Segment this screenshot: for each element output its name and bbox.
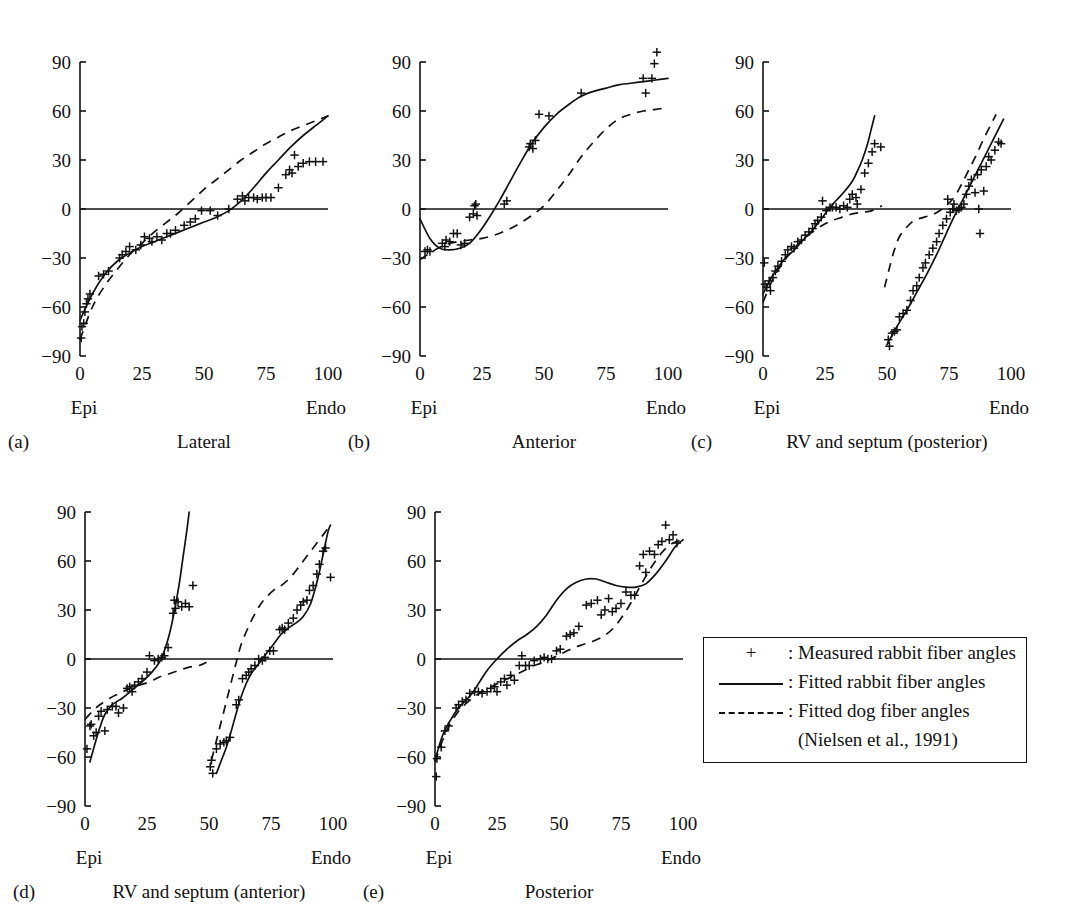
y-tick-label: 30	[407, 600, 426, 621]
fitted-dog-curve	[80, 116, 328, 340]
legend-label-fitted-rabbit: : Fitted rabbit fiber angles	[788, 671, 985, 693]
x-tick-label: 50	[200, 813, 219, 834]
x-tick-label: 50	[878, 363, 897, 384]
chart-c: 9060300−30−60−900255075100EpiEndo(c)RV a…	[683, 0, 1038, 455]
y-tick-label: −60	[724, 297, 754, 318]
x-tick-label: 100	[654, 363, 683, 384]
panel-letter: (e)	[363, 881, 384, 903]
x-tick-label: 0	[758, 363, 768, 384]
legend-text-2: Fitted rabbit fiber angles	[798, 671, 985, 692]
measured-points-group	[77, 151, 327, 342]
plus-marker-icon: +	[714, 643, 788, 662]
x-tick-label: 75	[612, 813, 631, 834]
measured-points-group	[760, 138, 1005, 351]
y-tick-label: 30	[57, 600, 76, 621]
x-tick-label: 0	[75, 363, 85, 384]
legend-colon-2: :	[788, 671, 793, 692]
y-tick-label: −90	[381, 346, 411, 367]
panel-title: Anterior	[512, 431, 577, 452]
measured-points-group	[432, 521, 681, 781]
endo-label: Endo	[661, 847, 701, 868]
x-tick-label: 75	[940, 363, 959, 384]
y-tick-label: −90	[41, 346, 71, 367]
x-tick-label: 0	[415, 363, 425, 384]
x-tick-label: 75	[257, 363, 276, 384]
legend-colon-3: :	[788, 700, 793, 721]
x-tick-label: 50	[195, 363, 214, 384]
endo-label: Endo	[989, 397, 1029, 418]
y-tick-label: −60	[46, 747, 76, 768]
legend-row-fitted-rabbit: : Fitted rabbit fiber angles	[704, 667, 1026, 696]
fitted-dog-curve	[211, 528, 328, 760]
dashed-line-icon	[714, 701, 788, 720]
y-tick-label: −30	[46, 698, 76, 719]
y-tick-label: 0	[745, 199, 755, 220]
x-tick-label: 25	[138, 813, 157, 834]
y-tick-label: 60	[735, 101, 754, 122]
panel-title: Posterior	[525, 881, 594, 902]
y-tick-label: −90	[724, 346, 754, 367]
panel-title: Lateral	[177, 431, 231, 452]
legend-label-fitted-dog: : Fitted dog fiber angles	[788, 700, 970, 722]
endo-label: Endo	[311, 847, 351, 868]
x-tick-label: 25	[816, 363, 835, 384]
x-tick-label: 50	[535, 363, 554, 384]
y-tick-label: −30	[381, 248, 411, 269]
x-tick-label: 25	[488, 813, 507, 834]
epi-label: Epi	[71, 397, 97, 418]
y-tick-label: 60	[407, 551, 426, 572]
y-tick-label: −30	[396, 698, 426, 719]
chart-b: 9060300−30−60−900255075100EpiEndo(b)Ante…	[340, 0, 695, 455]
legend-label-measured: : Measured rabbit fiber angles	[788, 642, 1016, 664]
legend-text-1: Measured rabbit fiber angles	[798, 642, 1016, 663]
legend-colon-1: :	[788, 642, 793, 663]
y-tick-label: 0	[417, 649, 427, 670]
y-tick-label: 30	[392, 150, 411, 171]
panel-e-posterior: 9060300−30−60−900255075100EpiEndo(e)Post…	[355, 450, 715, 909]
panel-title: RV and septum (anterior)	[113, 881, 306, 903]
panel-d-rv-septum-anterior: 9060300−30−60−900255075100EpiEndo(d)RV a…	[5, 450, 365, 909]
y-tick-label: −60	[41, 297, 71, 318]
x-tick-label: 100	[319, 813, 348, 834]
panel-c-rv-septum-posterior: 9060300−30−60−900255075100EpiEndo(c)RV a…	[683, 0, 1071, 455]
y-tick-label: 90	[392, 52, 411, 73]
y-tick-label: 0	[62, 199, 72, 220]
panel-title: RV and septum (posterior)	[786, 431, 987, 453]
y-tick-label: 90	[52, 52, 71, 73]
panel-letter: (d)	[13, 881, 35, 903]
fitted-rabbit-curve	[80, 116, 328, 320]
y-tick-label: 60	[52, 101, 71, 122]
y-tick-label: 90	[735, 52, 754, 73]
panel-b-anterior: 9060300−30−60−900255075100EpiEndo(b)Ante…	[340, 0, 690, 455]
epi-label: Epi	[426, 847, 452, 868]
y-tick-label: −30	[41, 248, 71, 269]
fitted-dog-curve	[763, 206, 882, 302]
legend-row-fitted-dog: : Fitted dog fiber angles	[704, 696, 1026, 725]
measured-points-group	[421, 48, 661, 256]
y-tick-label: −60	[381, 297, 411, 318]
legend-text-3: Fitted dog fiber angles	[798, 700, 970, 721]
y-tick-label: 0	[402, 199, 412, 220]
y-tick-label: −90	[46, 796, 76, 817]
panel-a-lateral: 9060300−30−60−900255075100EpiEndo(a)Late…	[0, 0, 350, 455]
x-tick-label: 0	[430, 813, 440, 834]
x-tick-label: 100	[669, 813, 698, 834]
epi-label: Epi	[76, 847, 102, 868]
chart-e: 9060300−30−60−900255075100EpiEndo(e)Post…	[355, 450, 710, 905]
chart-a: 9060300−30−60−900255075100EpiEndo(a)Late…	[0, 0, 355, 455]
x-tick-label: 0	[80, 813, 90, 834]
y-tick-label: 90	[57, 502, 76, 523]
y-tick-label: 30	[52, 150, 71, 171]
y-tick-label: −60	[396, 747, 426, 768]
fitted-dog-curve	[885, 114, 997, 287]
fitted-rabbit-curve	[420, 78, 668, 250]
measured-points-group	[83, 544, 335, 778]
y-tick-label: −30	[724, 248, 754, 269]
x-tick-label: 75	[262, 813, 281, 834]
solid-line-icon	[714, 672, 788, 691]
y-tick-label: 30	[735, 150, 754, 171]
y-tick-label: 0	[67, 649, 77, 670]
y-tick-label: −90	[396, 796, 426, 817]
x-tick-label: 25	[133, 363, 152, 384]
y-tick-label: 60	[392, 101, 411, 122]
